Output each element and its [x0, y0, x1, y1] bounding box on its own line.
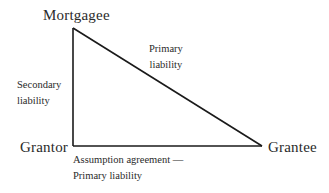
label-primary-line2: liability — [149, 57, 183, 73]
node-grantor: Grantor — [20, 140, 68, 155]
label-secondary-liability: Secondary liability — [17, 77, 61, 109]
node-mortgagee: Mortgagee — [43, 8, 110, 23]
label-assumption-line2: Primary liability — [73, 168, 183, 184]
label-primary-line1: Primary — [149, 41, 183, 57]
label-assumption-line1: Assumption agreement — — [73, 152, 183, 168]
label-secondary-line2: liability — [17, 93, 61, 109]
label-assumption-agreement: Assumption agreement — Primary liability — [73, 152, 183, 184]
liability-triangle-diagram: Mortgagee Grantor Grantee Secondary liab… — [0, 0, 329, 193]
label-secondary-line1: Secondary — [17, 77, 61, 93]
node-grantee: Grantee — [268, 140, 317, 155]
label-primary-liability: Primary liability — [149, 41, 183, 73]
